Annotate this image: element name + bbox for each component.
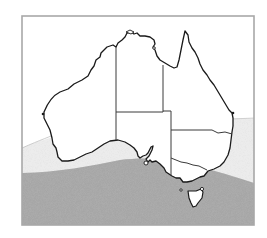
map-svg [0, 0, 267, 238]
groote-eylandt [153, 47, 156, 50]
perth-marker [42, 113, 45, 116]
brisbane-marker [232, 112, 235, 115]
flinders-island [200, 187, 203, 190]
australia-map: Australia zone map [0, 0, 267, 238]
kangaroo-island [144, 161, 148, 165]
king-island [180, 189, 182, 191]
